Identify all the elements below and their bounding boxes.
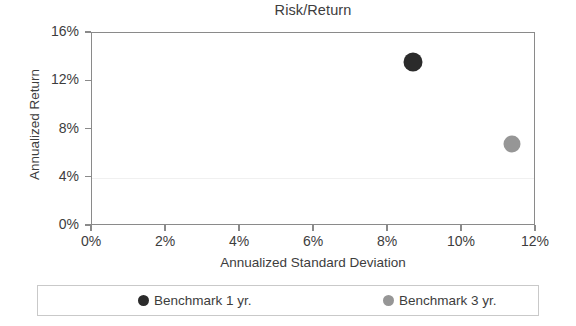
x-axis-tick-label: 0% [61,233,121,249]
x-axis-title: Annualized Standard Deviation [91,255,535,270]
legend-marker-icon [383,295,394,306]
x-axis-tick-label: 2% [135,233,195,249]
y-axis-tick [85,80,91,81]
legend-item[interactable]: Benchmark 3 yr. [383,286,497,315]
legend-item-label: Benchmark 1 yr. [154,293,252,308]
data-point-0[interactable] [403,52,422,71]
x-axis-tick [534,225,535,231]
x-axis-tick [90,225,91,231]
x-axis-tick [460,225,461,231]
gridline-horizontal [92,178,534,179]
x-axis-tick-label: 8% [357,233,417,249]
y-axis-tick [85,176,91,177]
plot-area [91,32,535,225]
x-axis-tick [238,225,239,231]
risk-return-scatter-chart: Risk/Return 0%4%8%12%16% Annualized Retu… [0,0,576,326]
legend-item[interactable]: Benchmark 1 yr. [138,286,252,315]
legend-item-label: Benchmark 3 yr. [399,293,497,308]
chart-title: Risk/Return [91,2,535,18]
x-axis-tick [312,225,313,231]
y-axis-tick [85,31,91,32]
x-axis-tick-label: 10% [431,233,491,249]
y-axis-title: Annualized Return [26,28,44,221]
legend: Benchmark 1 yr.Benchmark 3 yr. [37,285,539,316]
x-axis-tick-label: 12% [505,233,565,249]
data-point-1[interactable] [503,135,520,152]
x-axis-tick-label: 4% [209,233,269,249]
x-axis-tick [164,225,165,231]
x-axis-tick [386,225,387,231]
x-axis-tick-label: 6% [283,233,343,249]
y-axis-tick [85,128,91,129]
legend-marker-icon [138,295,149,306]
